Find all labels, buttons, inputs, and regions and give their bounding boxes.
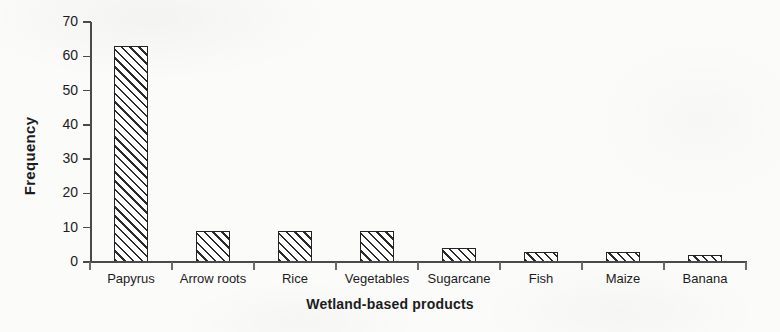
x-axis-category-label: Banana <box>664 271 746 286</box>
x-axis-category-label: Vegetables <box>336 271 418 286</box>
bar <box>114 46 148 262</box>
x-axis-tick-mark <box>171 262 173 270</box>
x-axis-title: Wetland-based products <box>0 296 780 312</box>
x-axis-tick-mark <box>335 262 337 270</box>
x-axis-category-label: Sugarcane <box>418 271 500 286</box>
y-axis-tick-mark <box>83 158 91 160</box>
y-axis-tick-label: 70 <box>38 13 78 29</box>
x-axis-tick-mark <box>89 262 91 270</box>
y-axis-tick-mark <box>83 227 91 229</box>
x-axis-category-label: Fish <box>500 271 582 286</box>
x-axis-category-label: Maize <box>582 271 664 286</box>
y-axis-tick-label: 20 <box>38 184 78 200</box>
plot-area <box>90 22 746 262</box>
y-axis-tick-label: 10 <box>38 219 78 235</box>
y-axis-tick-label: 60 <box>38 47 78 63</box>
y-axis-tick-label: 50 <box>38 82 78 98</box>
y-axis-tick-mark <box>83 21 91 23</box>
y-axis-tick-mark <box>83 124 91 126</box>
x-axis-tick-mark <box>581 262 583 270</box>
bar <box>442 248 476 262</box>
y-axis-tick-mark <box>83 56 91 58</box>
x-axis-tick-mark <box>499 262 501 270</box>
y-axis-tick-mark <box>83 90 91 92</box>
x-axis-category-label: Papyrus <box>90 271 172 286</box>
y-axis-title: Frequency <box>18 96 40 216</box>
y-axis-tick-mark <box>83 193 91 195</box>
x-axis-tick-mark <box>417 262 419 270</box>
bar <box>360 231 394 262</box>
bar <box>196 231 230 262</box>
x-axis-tick-mark <box>663 262 665 270</box>
bar-chart-figure: Frequency Wetland-based products Papyrus… <box>0 0 780 332</box>
bar <box>278 231 312 262</box>
x-axis-category-label: Rice <box>254 271 336 286</box>
y-axis-tick-label: 40 <box>38 116 78 132</box>
x-axis-tick-mark <box>253 262 255 270</box>
y-axis-tick-label: 30 <box>38 150 78 166</box>
y-axis-tick-label: 0 <box>38 253 78 269</box>
x-axis-tick-mark <box>745 262 747 270</box>
x-axis-category-label: Arrow roots <box>172 271 254 286</box>
